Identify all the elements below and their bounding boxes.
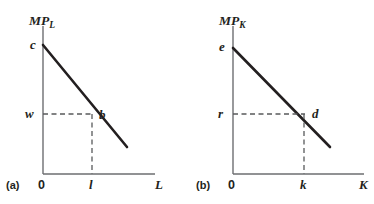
labor-quantity-label-l: l [89,178,93,191]
figure-root: MPL c w b (a) 0 l L MPK e r d (b) 0 k [0,0,374,204]
y-axis-title-b: MPK [219,14,246,28]
rental-rate-label-r: r [218,107,223,120]
equilibrium-point-label-b: b [99,108,106,121]
x-axis-label-a: L [155,178,163,191]
panel-mp-capital: MPK e r d (b) 0 k K [187,0,374,204]
panel-a-graphic [0,0,187,204]
origin-label-b: 0 [228,179,235,192]
panel-tag-b: (b) [196,180,210,191]
capital-quantity-label-k: k [300,178,307,191]
wage-label-w: w [25,107,34,120]
mp-capital-curve [233,48,330,147]
panel-mp-labor: MPL c w b (a) 0 l L [0,0,187,204]
mp-labor-curve [43,45,127,147]
intercept-label-c: c [30,38,36,51]
x-axis-label-b: K [359,178,368,191]
intercept-label-e: e [219,40,225,53]
equilibrium-point-label-d: d [312,107,319,120]
origin-label-a: 0 [38,179,45,192]
y-axis-title-a: MPL [29,14,55,28]
panel-b-graphic [187,0,374,204]
panel-tag-a: (a) [6,180,19,191]
